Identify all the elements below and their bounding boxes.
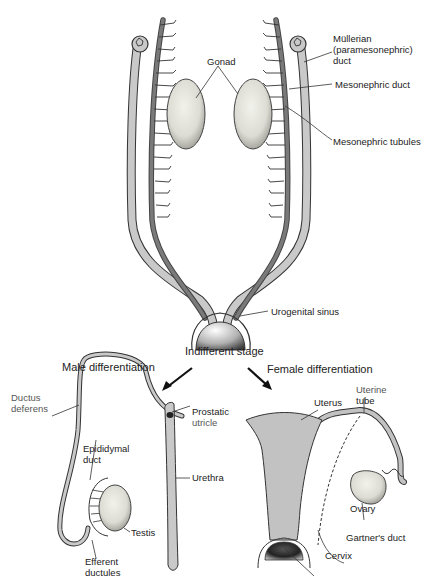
label-urethra: Urethra bbox=[192, 472, 224, 483]
label-testis: Testis bbox=[131, 527, 155, 538]
label-prostatic-line-2: utricle bbox=[192, 417, 229, 428]
label-mullerian-line-1: Müllerian bbox=[333, 33, 443, 44]
ovary bbox=[351, 471, 386, 504]
label-uterine-tube: Uterine tube bbox=[356, 384, 387, 406]
label-ovary: Ovary bbox=[350, 503, 375, 514]
title-male-differentiation: Male differentiation bbox=[62, 361, 155, 374]
label-efferent-line-1: Efferent bbox=[85, 556, 120, 567]
label-urogenital-sinus: Urogenital sinus bbox=[271, 306, 339, 317]
arrow-to-male bbox=[162, 368, 192, 391]
label-mullerian-line-3: duct bbox=[333, 55, 443, 66]
label-gonad: Gonad bbox=[207, 56, 236, 67]
label-prostatic-line-1: Prostatic bbox=[192, 406, 229, 417]
label-prostatic-utricle: Prostatic utricle bbox=[192, 406, 229, 428]
title-indifferent-stage: Indifferent stage bbox=[185, 345, 264, 358]
label-efferent-ductules: Efferent ductules bbox=[85, 556, 120, 578]
label-ductus-line-2: deferens bbox=[11, 403, 48, 414]
urethra bbox=[165, 402, 178, 570]
left-gonad bbox=[167, 79, 205, 149]
indifferent-stage-figure bbox=[131, 20, 332, 350]
label-mesonephric-tubules: Mesonephric tubules bbox=[333, 136, 421, 147]
label-epididymal-line-1: Epididymal bbox=[83, 443, 129, 454]
label-mullerian-duct: Müllerian (paramesonephric) duct bbox=[333, 33, 443, 66]
label-uterine-line-1: Uterine bbox=[356, 384, 387, 395]
title-female-differentiation: Female differentiation bbox=[267, 363, 373, 376]
label-uterine-line-2: tube bbox=[356, 395, 387, 406]
cervix bbox=[265, 542, 303, 560]
label-uterus: Uterus bbox=[314, 397, 342, 408]
prostatic-utricle bbox=[167, 412, 174, 418]
uterus bbox=[246, 413, 322, 541]
label-efferent-line-2: ductules bbox=[85, 567, 120, 578]
right-gonad bbox=[234, 79, 272, 149]
testis bbox=[99, 485, 131, 531]
label-ductus-line-1: Ductus bbox=[11, 392, 48, 403]
label-cervix: Cervix bbox=[325, 550, 352, 561]
label-gartners-duct: Gartner's duct bbox=[346, 532, 405, 543]
label-mullerian-line-2: (paramesonephric) bbox=[333, 44, 443, 55]
label-epididymal-line-2: duct bbox=[83, 454, 129, 465]
label-mesonephric-duct: Mesonephric duct bbox=[335, 79, 410, 90]
label-epididymal-duct: Epididymal duct bbox=[83, 443, 129, 465]
label-ductus-deferens: Ductus deferens bbox=[11, 392, 48, 414]
